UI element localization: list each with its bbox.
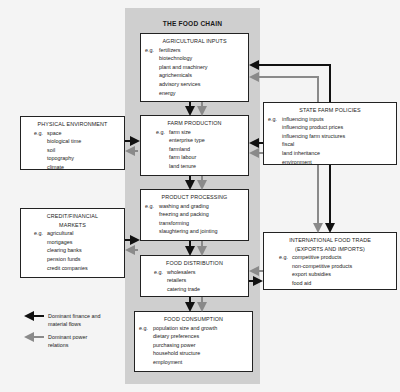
box-title: CREDIT/FINANCIAL MARKETS [25, 212, 120, 229]
list-item: catering trade [167, 285, 200, 294]
list-item: purchasing power [153, 341, 217, 350]
list-item: fertilizers [159, 46, 208, 55]
state-farm-policies-box: STATE FARM POLICIES e.g. influencing inp… [263, 102, 397, 165]
list-item: land inheritance [282, 149, 345, 158]
list-item: food aid [292, 279, 352, 288]
eg-label: e.g. [25, 229, 47, 272]
eg-label: e.g. [25, 129, 47, 172]
eg-label: e.g. [268, 253, 292, 287]
diagram-title: THE FOOD CHAIN [125, 20, 260, 27]
list-item: climate [47, 163, 81, 172]
list-item: influencing product prices [282, 123, 345, 132]
list-item: slaughtering and jointing [159, 227, 217, 236]
list-item: household structure [153, 349, 217, 358]
legend-arrows [26, 316, 44, 337]
international-food-trade-box: INTERNATIONAL FOOD TRADE (EXPORTS AND IM… [263, 232, 397, 290]
box-title: STATE FARM POLICIES [268, 106, 392, 115]
list-item: influencing inputs [282, 115, 345, 124]
list-item: retailers [167, 276, 200, 285]
list-item: export subsidies [292, 270, 352, 279]
agricultural-inputs-box: AGRICULTURAL INPUTS e.g. fertilizers bio… [140, 33, 249, 102]
list-item: enterprise type [169, 136, 205, 145]
food-distribution-box: FOOD DISTRIBUTION e.g. wholesalers retai… [140, 255, 249, 297]
list-item: biological time [47, 137, 81, 146]
legend-power-relations: Dominant power relations [48, 333, 100, 349]
farm-production-box: FARM PRODUCTION e.g. farm size enterpris… [140, 115, 249, 176]
product-processing-box: PRODUCT PROCESSING e.g. washing and grad… [140, 189, 249, 241]
list-item: non-competitive products [292, 262, 352, 271]
list-item: mortgages [47, 238, 88, 247]
list-item: biotechnology [159, 54, 208, 63]
food-consumption-box: FOOD CONSUMPTION e.g. population size an… [134, 311, 253, 372]
list-item: credit companies [47, 264, 88, 273]
list-item: pension funds [47, 255, 88, 264]
list-item: freezing and packing [159, 210, 217, 219]
list-item: land tenure [169, 162, 205, 171]
box-title: AGRICULTURAL INPUTS [145, 37, 244, 46]
box-title: INTERNATIONAL FOOD TRADE (EXPORTS AND IM… [268, 236, 392, 253]
list-item: soil [47, 146, 81, 155]
list-item: farmland [169, 145, 205, 154]
list-item: competitive products [292, 253, 352, 262]
list-item: population size and growth [153, 324, 217, 333]
list-item: energy [159, 89, 208, 98]
legend-finance-flows: Dominant finance and material flows [48, 312, 108, 328]
physical-environment-box: PHYSICAL ENVIRONMENT e.g. space biologic… [20, 116, 125, 170]
list-item: influencing farm structures [282, 132, 345, 141]
list-item: agricultural [47, 229, 88, 238]
list-item: topography [47, 154, 81, 163]
list-item: clearing banks [47, 246, 88, 255]
eg-label: e.g. [139, 324, 153, 367]
eg-label: e.g. [268, 115, 282, 167]
eg-label: e.g. [145, 202, 159, 236]
box-title: PHYSICAL ENVIRONMENT [25, 120, 120, 129]
list-item: wholesalers [167, 268, 200, 277]
list-item: space [47, 129, 81, 138]
credit-financial-markets-box: CREDIT/FINANCIAL MARKETS e.g. agricultur… [20, 208, 125, 278]
list-item: transforming [159, 219, 217, 228]
list-item: fiscal [282, 140, 345, 149]
box-title: PRODUCT PROCESSING [145, 193, 244, 202]
box-title: FOOD DISTRIBUTION [145, 259, 244, 268]
list-item: advisory services [159, 80, 208, 89]
eg-label: e.g. [145, 46, 159, 98]
list-item: employment [153, 358, 217, 367]
list-item: farm labour [169, 153, 205, 162]
list-item: plant and machinery [159, 63, 208, 72]
list-item: washing and grading [159, 202, 217, 211]
list-item: dietary preferences [153, 332, 217, 341]
list-item: agrichemicals [159, 71, 208, 80]
box-title: FOOD CONSUMPTION [139, 315, 248, 324]
eg-label: e.g. [145, 268, 167, 294]
list-item: environment [282, 158, 345, 167]
list-item: farm size [169, 128, 205, 137]
box-title: FARM PRODUCTION [145, 119, 244, 128]
eg-label: e.g. [145, 128, 169, 171]
